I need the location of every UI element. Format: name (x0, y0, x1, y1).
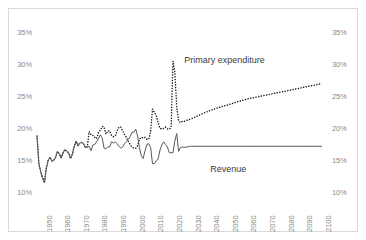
x-axis-tick: 1960 (64, 215, 72, 232)
x-axis-tick: 1980 (101, 215, 109, 232)
series-line-revenue (37, 129, 322, 183)
y-axis-right-tick: 35% (332, 29, 358, 37)
chart-container: 35%30%25%20%15%10% 35%30%25%20%15%10% 19… (0, 0, 366, 240)
x-axis-tick: 2000 (139, 215, 147, 232)
annotation-revenue: Revenue (210, 165, 246, 174)
x-axis-tick: 2050 (232, 215, 240, 232)
y-axis-right-tick: 25% (332, 93, 358, 101)
x-axis-tick: 2080 (288, 215, 296, 232)
y-axis-right-tick: 10% (332, 189, 358, 197)
x-axis-tick: 2070 (269, 215, 277, 232)
x-axis-tick: 1990 (120, 215, 128, 232)
y-axis-left-tick: 10% (6, 189, 32, 197)
x-axis-tick: 2020 (176, 215, 184, 232)
y-axis-left-tick: 15% (6, 157, 32, 165)
series-layer (37, 61, 322, 183)
y-axis-left-tick: 30% (6, 61, 32, 69)
x-axis-tick: 2030 (195, 215, 203, 232)
x-axis-tick: 2010 (157, 215, 165, 232)
series-line-primary-expenditure (37, 61, 322, 183)
y-axis-right-tick: 15% (332, 157, 358, 165)
x-axis-tick: 2040 (213, 215, 221, 232)
x-axis-tick: 2100 (325, 215, 333, 232)
y-axis-left-tick: 25% (6, 93, 32, 101)
annotation-primary-expenditure: Primary expenditure (184, 56, 265, 65)
y-axis-right-tick: 20% (332, 125, 358, 133)
x-axis-tick: 2090 (306, 215, 314, 232)
x-axis-tick: 1970 (83, 215, 91, 232)
y-axis-left-tick: 35% (6, 29, 32, 37)
y-axis-left-tick: 20% (6, 125, 32, 133)
chart-svg (0, 0, 366, 240)
x-axis-tick: 2060 (250, 215, 258, 232)
x-axis-tick: 1950 (46, 215, 54, 232)
y-axis-right-tick: 30% (332, 61, 358, 69)
